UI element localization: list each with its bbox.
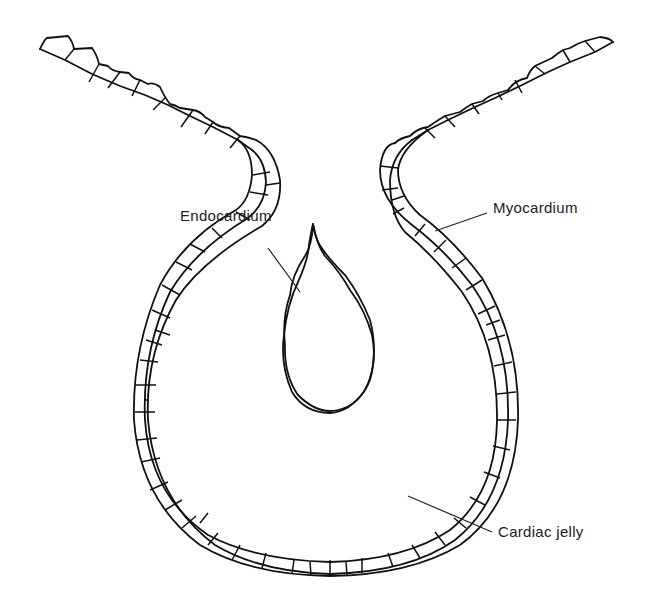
left-ectoderm-flap bbox=[40, 36, 256, 150]
endocardium-tube bbox=[283, 224, 374, 413]
label-endocardium: Endocardium bbox=[180, 207, 272, 224]
myocardium-leader bbox=[435, 213, 487, 231]
right-ectoderm-flap bbox=[395, 37, 613, 143]
myocardium-ring bbox=[134, 130, 518, 576]
heart-tube-drawing bbox=[0, 0, 659, 596]
label-myocardium: Myocardium bbox=[493, 199, 578, 216]
label-cardiac-jelly: Cardiac jelly bbox=[498, 523, 584, 540]
endocardium-leader bbox=[268, 248, 300, 292]
diagram-canvas: Endocardium Myocardium Cardiac jelly bbox=[0, 0, 659, 596]
